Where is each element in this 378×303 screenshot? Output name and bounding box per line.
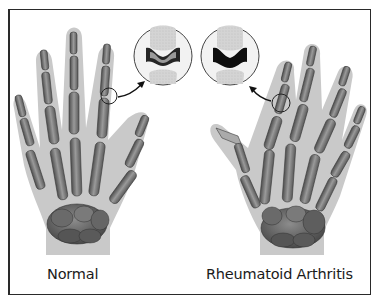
normal-label: Normal xyxy=(47,266,98,282)
hands-illustration xyxy=(0,0,378,303)
normal-callout-arrow xyxy=(118,84,142,97)
normal-joint-inset xyxy=(134,26,192,86)
normal-hand xyxy=(13,28,149,256)
ra-joint-inset xyxy=(201,26,259,86)
rheumatoid-arthritis-label: Rheumatoid Arthritis xyxy=(206,266,353,282)
